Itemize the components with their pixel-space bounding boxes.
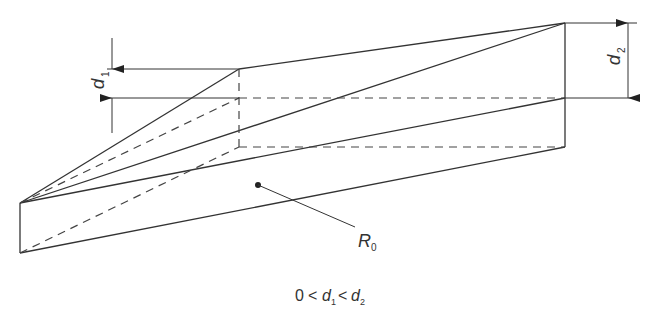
caption-lt-1: < <box>308 287 317 304</box>
hidden-diag-lower <box>20 147 239 253</box>
hidden-diag-upper <box>20 98 239 203</box>
edge-to-top-mid <box>20 69 239 203</box>
caption: 0 < d 1 < d 2 <box>295 287 365 307</box>
region-callout: R 0 <box>255 182 377 253</box>
caption-lt-2: < <box>338 287 347 304</box>
caption-d2-sub: 2 <box>360 297 365 307</box>
diagonal-to-top-right <box>20 23 565 203</box>
d1-dimension: d 1 <box>87 38 239 133</box>
d2-dimension: d 2 <box>565 23 637 98</box>
hidden-edges <box>20 69 565 253</box>
top-edge <box>239 23 565 69</box>
d2-subscript: 2 <box>616 47 627 53</box>
edge-to-mid-right <box>20 98 565 203</box>
d1-subscript: 1 <box>100 71 111 77</box>
prism-diagram: d 1 d 2 R 0 0 < d 1 < d 2 <box>0 0 656 323</box>
d2-label: d <box>603 53 624 65</box>
caption-d1-sub: 1 <box>331 297 336 307</box>
caption-zero: 0 <box>295 287 304 304</box>
solid-edges <box>20 23 565 253</box>
region-label: R <box>358 231 371 251</box>
region-subscript: 0 <box>371 242 377 253</box>
d1-label: d <box>87 77 108 89</box>
